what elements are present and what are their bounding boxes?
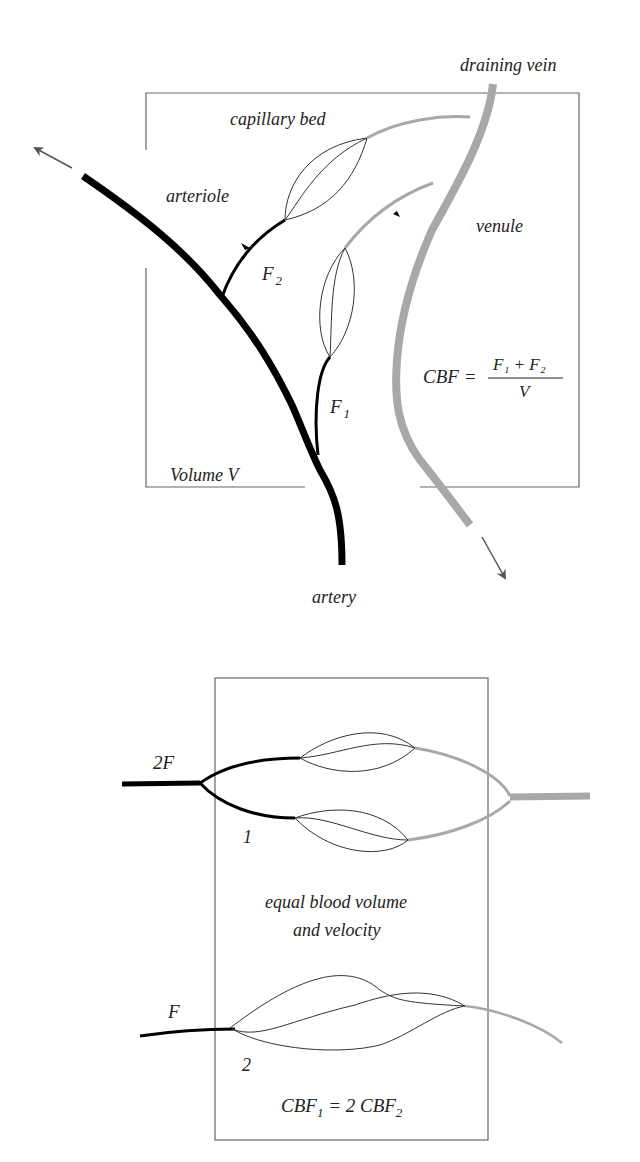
- vein-2f: [510, 796, 590, 797]
- artery-f: [140, 1029, 235, 1036]
- cbf-ratio-equation: CBF1 = 2 CBF2: [281, 1095, 403, 1120]
- bottom-diagram: 2F 1 equal blood volume and velocity F 2…: [122, 678, 590, 1140]
- venule-f: [465, 1006, 562, 1043]
- capillary-bed-f: [230, 976, 465, 1050]
- label-arteriole: arteriole: [166, 186, 229, 206]
- venule-lower: [345, 183, 433, 248]
- main-artery: [83, 176, 342, 565]
- capillary-bed-2f-upper: [300, 733, 415, 772]
- label-note-line1: equal blood volume: [265, 892, 407, 912]
- label-2f: 2F: [153, 752, 175, 773]
- arteriole-f1: [316, 357, 330, 455]
- arteriole-lower: [200, 783, 295, 818]
- top-diagram: draining vein capillary bed arteriole ve…: [35, 55, 579, 607]
- svg-text:V: V: [519, 382, 532, 401]
- artery-out-arrow-icon: [35, 148, 72, 168]
- label-capillary-bed: capillary bed: [230, 109, 326, 129]
- label-draining-vein: draining vein: [460, 55, 557, 75]
- label-2: 2: [242, 1055, 251, 1075]
- label-f: F: [167, 1001, 180, 1022]
- capillary-bed-lower: [320, 248, 355, 357]
- cbf-equation: CBF = F₁ + F₂ V: [423, 355, 563, 401]
- vein-out-arrow-icon: [482, 537, 505, 578]
- label-1: 1: [243, 827, 252, 847]
- cbf-diagram: draining vein capillary bed arteriole ve…: [0, 0, 640, 1162]
- venule-2f-lower: [408, 801, 510, 840]
- flow-marker-icon: [393, 211, 400, 217]
- svg-text:CBF =: CBF =: [423, 366, 476, 387]
- capillary-bed-upper: [285, 138, 367, 220]
- artery-2f: [122, 783, 200, 784]
- label-artery: artery: [312, 587, 356, 607]
- capillary-bed-2f-lower: [295, 810, 408, 852]
- label-volume: Volume V: [170, 465, 240, 485]
- venule-upper: [367, 117, 470, 138]
- label-venule: venule: [476, 216, 523, 236]
- draining-vein: [396, 84, 493, 525]
- label-f1: F1: [329, 396, 350, 421]
- svg-text:F₁ + F₂: F₁ + F₂: [492, 355, 546, 374]
- label-note-line2: and velocity: [293, 920, 380, 940]
- venule-2f-upper: [415, 748, 510, 796]
- label-f2: F2: [261, 263, 283, 288]
